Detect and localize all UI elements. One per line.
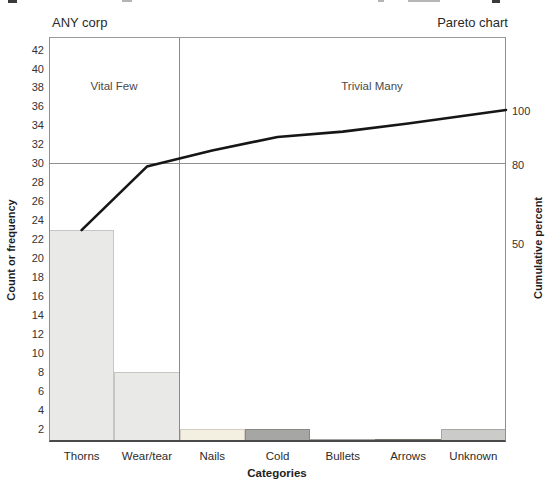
category-label-bullets: Bullets bbox=[310, 450, 375, 463]
left-tick-28: 28 bbox=[0, 176, 44, 189]
right-axis-title: Cumulative percent bbox=[532, 197, 544, 299]
right-tick-80: 80 bbox=[512, 159, 546, 172]
left-tick-10: 10 bbox=[0, 347, 44, 360]
left-tick-4: 4 bbox=[0, 404, 44, 417]
cropped-caption-remnant bbox=[492, 0, 500, 3]
vital-few-label: Vital Few bbox=[90, 80, 137, 92]
left-tick-6: 6 bbox=[0, 385, 44, 398]
cropped-caption-remnant bbox=[8, 0, 17, 3]
left-tick-2: 2 bbox=[0, 423, 44, 436]
left-tick-8: 8 bbox=[0, 366, 44, 379]
bar-wear-tear bbox=[114, 372, 179, 442]
left-tick-30: 30 bbox=[0, 157, 44, 170]
category-label-thorns: Thorns bbox=[49, 450, 114, 463]
chart-title: Pareto chart bbox=[437, 15, 508, 30]
cumulative-line-path bbox=[82, 110, 506, 230]
bar-arrows bbox=[375, 439, 440, 443]
reference-line-80-percent bbox=[49, 163, 506, 164]
cropped-caption-remnant bbox=[408, 0, 440, 2]
x-axis-title: Categories bbox=[247, 467, 306, 479]
bar-unknown bbox=[441, 429, 506, 442]
left-tick-42: 42 bbox=[0, 44, 44, 57]
left-axis-title: Count or frequency bbox=[5, 199, 17, 300]
left-tick-36: 36 bbox=[0, 100, 44, 113]
cropped-caption-remnant bbox=[378, 0, 384, 2]
left-tick-14: 14 bbox=[0, 309, 44, 322]
left-tick-40: 40 bbox=[0, 63, 44, 76]
pareto-chart-figure: ANY corp Pareto chart Vital Few Trivial … bbox=[0, 0, 552, 488]
left-tick-12: 12 bbox=[0, 328, 44, 341]
category-label-unknown: Unknown bbox=[441, 450, 506, 463]
trivial-many-label: Trivial Many bbox=[341, 80, 403, 92]
company-title: ANY corp bbox=[52, 15, 107, 30]
left-tick-32: 32 bbox=[0, 138, 44, 151]
bar-nails bbox=[180, 429, 245, 442]
bar-cold bbox=[245, 429, 310, 442]
right-tick-100: 100 bbox=[512, 105, 546, 118]
category-label-wear-tear: Wear/tear bbox=[114, 450, 179, 463]
left-tick-34: 34 bbox=[0, 119, 44, 132]
category-label-nails: Nails bbox=[180, 450, 245, 463]
bar-bullets bbox=[310, 439, 375, 443]
category-label-cold: Cold bbox=[245, 450, 310, 463]
bar-thorns bbox=[49, 230, 114, 442]
vital-trivial-divider-line bbox=[179, 37, 180, 442]
cropped-caption-remnant bbox=[122, 0, 132, 2]
category-label-arrows: Arrows bbox=[375, 450, 440, 463]
left-tick-38: 38 bbox=[0, 81, 44, 94]
